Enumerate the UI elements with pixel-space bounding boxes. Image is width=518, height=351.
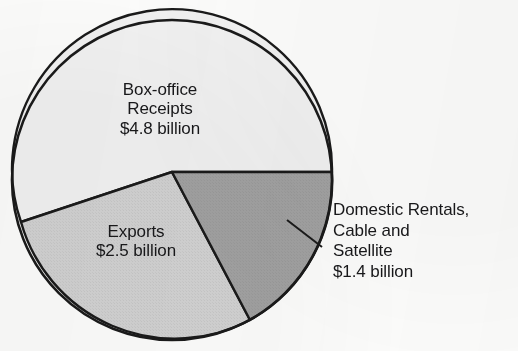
- slice-label-boxoffice: Box-office Receipts $4.8 billion: [72, 80, 248, 138]
- slice-label-exports: Exports $2.5 billion: [48, 222, 224, 261]
- pie-chart-figure: Box-office Receipts $4.8 billion Exports…: [0, 0, 518, 351]
- pie-chart-canvas: [0, 0, 518, 351]
- slice-label-domestic-rentals: Domestic Rentals, Cable and Satellite $1…: [333, 200, 515, 283]
